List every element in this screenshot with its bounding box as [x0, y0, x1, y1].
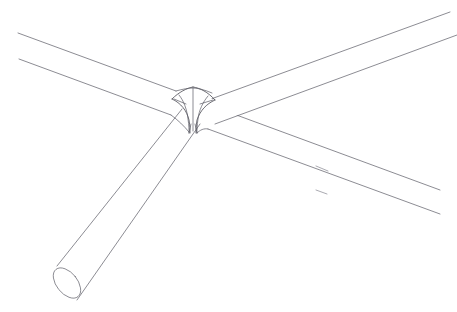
drawing-canvas: Pipe Junction Wireframe Isometric wirefr…	[0, 0, 457, 312]
pipe-junction-wireframe	[0, 0, 457, 312]
